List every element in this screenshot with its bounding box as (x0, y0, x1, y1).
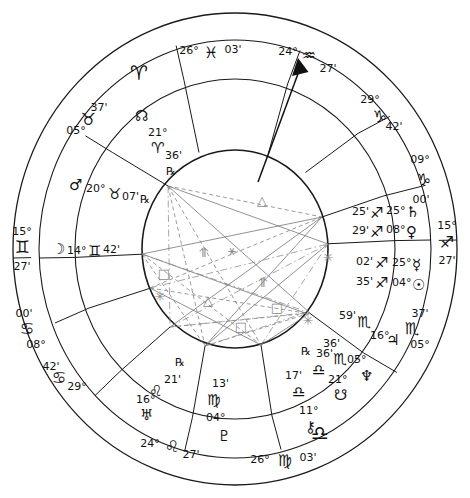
venus-minute: 02' (356, 255, 373, 268)
saturn-icon: ♄ (406, 203, 419, 221)
quincunx-marker-2: ⥣ (258, 275, 268, 290)
cusp-3-degree: 29° (67, 380, 87, 393)
sun-degree: 04° (392, 276, 412, 289)
cusp-2-minute: 00' (15, 307, 32, 320)
cusp-12-minute: 37' (90, 101, 107, 114)
mars-sign-glyph: ♉ (108, 185, 121, 203)
sun-sign-glyph: ♐ (375, 274, 388, 292)
ic-minute: 27' (182, 448, 199, 461)
conjunction-marker: ⚹ (228, 243, 236, 258)
neptune-retrograde-icon: ℞ (301, 345, 311, 358)
dsc-degree: 15° (437, 219, 457, 232)
cusp-11-sign-glyph: ♓ (204, 43, 218, 62)
cusp-2-sign-glyph: ♋ (20, 319, 34, 338)
chart-svg: △✳□⥣⚹△□⥣□✳✳ 15° ♊ 27' 15° ♐ 27' 24° ♒ 27… (0, 0, 470, 498)
house-spoke-2 (89, 288, 151, 308)
mc-minute: 27' (319, 62, 336, 75)
cusp-11-minute: 03' (224, 43, 241, 56)
chiron-icon: ⚷ (305, 418, 316, 436)
south-node-sign-glyph: ♎ (312, 361, 325, 379)
house-cusp-6: 05° ♏ 37' (405, 307, 430, 351)
pluto-sign-glyph: ♍ (207, 391, 220, 409)
mars-retrograde-icon: ℞ (140, 193, 150, 206)
pluto-degree: 04° (206, 411, 226, 424)
saturn-degree: 25° (386, 204, 406, 217)
house-spoke-dsc (328, 241, 395, 244)
mercury-icon: ♀ (406, 223, 417, 241)
house-cusp-12: 05° ♉ 37' (66, 101, 107, 137)
pluto-icon: ♇ (217, 427, 230, 445)
house-cusp-5: 26° ♍ 03' (250, 451, 316, 470)
descendant-label: 15° ♐ 27' (437, 219, 457, 267)
mercury-minute: 29' (352, 224, 369, 237)
venus-sign-glyph: ♐ (375, 254, 388, 272)
ic-degree: 24° (140, 437, 160, 450)
house-cusp-2: 08° ♋ 00' (15, 307, 45, 351)
cusp-2-degree: 08° (26, 338, 46, 351)
asc-sign-glyph: ♊ (14, 237, 29, 257)
cusp-6-degree: 05° (410, 338, 430, 351)
jupiter-icon: ♃ (386, 331, 399, 349)
mars-minute: 07' (122, 190, 139, 203)
south-node-degree: 21° (328, 373, 348, 386)
planet-north-node: ☊ 21° ♈ 36' ℞ (135, 107, 182, 178)
neptune-minute: 36' (323, 337, 340, 350)
mercury-degree: 08° (386, 223, 406, 236)
trine-marker: △ (257, 193, 267, 208)
jupiter-minute: 59' (339, 309, 356, 322)
mc-sign-glyph: ♒ (302, 46, 316, 65)
natal-chart-wheel: △✳□⥣⚹△□⥣□✳✳ 15° ♊ 27' 15° ♐ 27' 24° ♒ 27… (0, 0, 470, 498)
neptune-icon: ♆ (360, 367, 373, 385)
aries-cardinal-marker-icon: ♈ (130, 61, 148, 85)
planet-saturn: 25' ♐ 25° ♄ (352, 203, 419, 222)
chiron-degree: 11° (299, 404, 319, 417)
divider-3 (95, 372, 120, 396)
house-spoke-4 (192, 346, 205, 418)
venus-degree: 25° (392, 256, 412, 269)
planet-chiron: 17' ♎ 11° ⚷ (285, 369, 319, 436)
north-node-icon: ☊ (135, 107, 148, 125)
venus-icon: ☿ (412, 256, 421, 274)
midheaven-label: 24° ♒ 27' (278, 45, 336, 75)
cusp-5-degree: 26° (250, 453, 270, 466)
neptune-degree: 05° (347, 353, 367, 366)
cusp-5-minute: 03' (299, 451, 316, 464)
house-cusp-8: 09° ♑ 00' (410, 153, 431, 206)
ascendant-label: 15° ♊ 27' (12, 225, 32, 273)
uranus-retrograde-icon: ℞ (175, 356, 185, 369)
cusp-5-sign-glyph: ♍ (278, 451, 292, 470)
divider-5 (272, 416, 281, 450)
square-marker-3: □ (271, 300, 283, 315)
cusp-9-minute: 42' (385, 120, 402, 133)
cusp-6-sign-glyph: ♏ (405, 319, 419, 338)
south-node-icon: ☋ (334, 386, 347, 404)
sextile-marker-2: ✳ (323, 250, 334, 265)
house-cusp-9: 29° ♑ 42' (360, 93, 402, 133)
house-spoke-9 (305, 133, 358, 172)
pluto-minute: 13' (212, 377, 229, 390)
house-spoke-10 (268, 84, 287, 154)
quincunx-marker: ⥣ (199, 245, 209, 260)
moon-degree: 14° (67, 244, 87, 257)
planet-jupiter: 59' ♏ 16° ♃ (339, 309, 399, 349)
saturn-sign-glyph: ♐ (370, 204, 383, 222)
cusp-8-sign-glyph: ♑ (417, 170, 431, 189)
planet-pluto: 13' ♍ 04° ♇ (206, 377, 231, 445)
sextile-marker: ✳ (155, 289, 166, 304)
neptune-sign-glyph: ♏ (333, 350, 347, 368)
planet-venus: 02' ♐ 25° ☿ (356, 254, 421, 274)
dsc-minute: 27' (438, 254, 455, 267)
dsc-sign-glyph: ♐ (440, 233, 454, 252)
planet-sun: 35' ♐ 04° ☉ (356, 274, 425, 294)
uranus-degree: 16° (136, 393, 156, 406)
moon-sign-glyph: ♊ (88, 242, 101, 260)
planet-uranus: ℞ 21' ♌ 16° ♅ (136, 356, 185, 424)
imum-coeli-label: 24° ♌ 27' (140, 437, 199, 461)
house-spoke-11 (184, 80, 199, 152)
jupiter-sign-glyph: ♏ (357, 313, 371, 331)
divider-4 (185, 418, 193, 452)
planet-mercury: 29' ♐ 08° ♀ (352, 223, 417, 241)
chiron-minute: 17' (285, 369, 302, 382)
house-spoke-5 (261, 345, 272, 416)
north-node-degree: 21° (148, 126, 168, 139)
